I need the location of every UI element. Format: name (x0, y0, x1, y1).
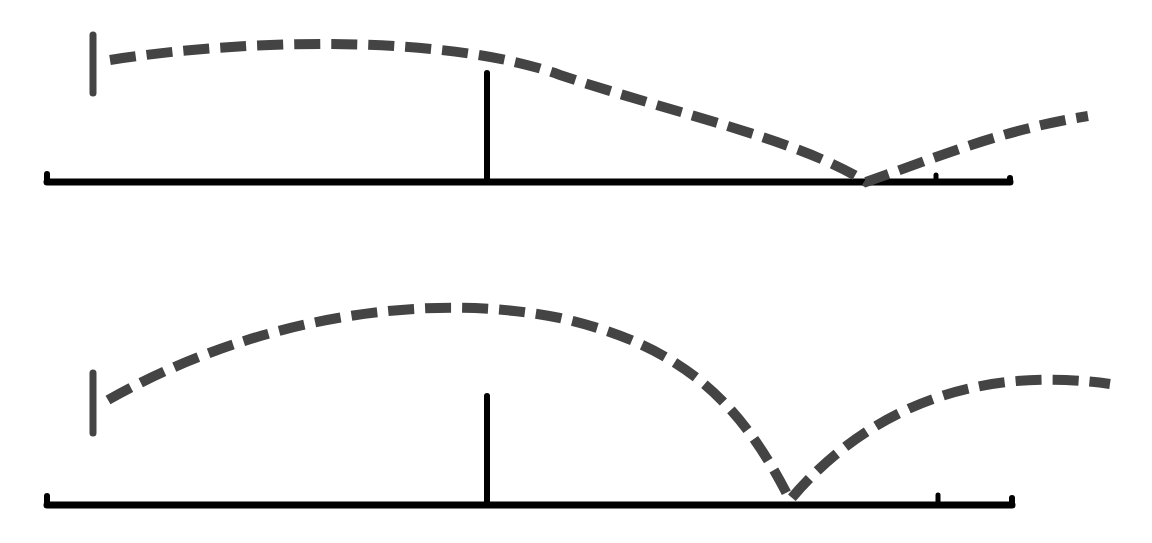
dashed-trajectory (108, 308, 1110, 500)
trajectory-diagram (0, 0, 1152, 543)
panel-top (47, 35, 1088, 182)
panel-bottom (47, 308, 1110, 505)
dashed-trajectory (110, 44, 1088, 182)
diagram-canvas (0, 0, 1152, 543)
